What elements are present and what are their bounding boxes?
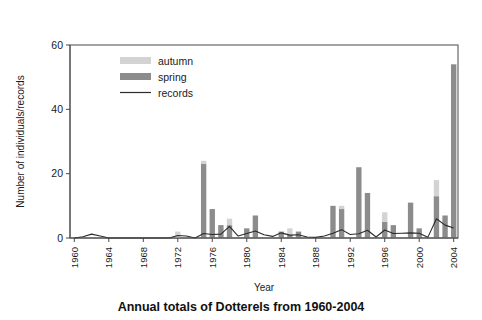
y-tick-label-60: 60 [51,39,63,51]
legend-label-autumn: autumn [158,55,193,67]
x-axis-title: Year [254,282,275,293]
bar-autumn-1975 [201,161,206,164]
y-tick-label-20: 20 [51,167,63,179]
y-tick-label-40: 40 [51,103,63,115]
bar-autumn-1972 [175,232,180,238]
y-axis-title: Number of individuals/records [15,75,26,207]
x-tick-label-1996: 1996 [379,247,390,268]
chart-title: Annual totals of Dotterels from 1960-200… [118,300,365,314]
x-tick-label-1976: 1976 [207,247,218,268]
x-tick-label-1992: 1992 [345,247,356,268]
bar-spring-2004 [451,64,456,238]
bar-spring-1981 [253,215,258,238]
bar-spring-1977 [218,225,223,238]
legend-label-spring: spring [158,71,187,83]
x-tick-label-1968: 1968 [138,247,149,268]
x-tick-label-1988: 1988 [310,247,321,268]
bar-autumn-1985 [287,228,292,234]
dotterels-annual-totals-chart: 0204060196019641968197219761980198419881… [0,0,482,320]
bar-autumn-1991 [339,206,344,209]
bar-spring-1993 [356,167,361,238]
bar-autumn-1978 [227,219,232,225]
bar-spring-2002 [434,196,439,238]
x-tick-label-1960: 1960 [69,247,80,268]
x-tick-label-2004: 2004 [448,247,459,268]
bar-autumn-1996 [382,212,387,222]
x-tick-label-1972: 1972 [172,247,183,268]
legend-label-records: records [158,87,193,99]
y-tick-label-0: 0 [57,232,63,244]
x-tick-label-1984: 1984 [276,247,287,268]
bar-spring-2003 [442,215,447,238]
bar-spring-1976 [210,209,215,238]
x-tick-label-1980: 1980 [241,247,252,268]
bar-spring-1975 [201,164,206,238]
chart-figure: 0204060196019641968197219761980198419881… [0,0,482,320]
x-tick-label-2000: 2000 [414,247,425,268]
x-tick-label-1964: 1964 [103,247,114,268]
bar-autumn-2002 [434,180,439,196]
bar-spring-1991 [339,209,344,238]
bar-spring-1997 [391,225,396,238]
